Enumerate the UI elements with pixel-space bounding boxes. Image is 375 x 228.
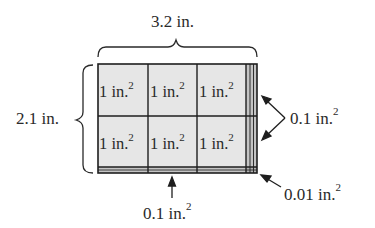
area-diagram: 3.2 in. 2.1 in. 1 in.2 1 in.2 1 in.2 1 i… <box>0 0 375 228</box>
corner-callout-arrow <box>261 175 281 187</box>
bottom-strip-label: 0.1 in.2 <box>143 205 191 222</box>
cell-label-r0c0: 1 in.2 <box>99 84 134 101</box>
arrowhead-icon <box>169 177 176 186</box>
right-strip-label: 0.1 in.2 <box>290 110 338 127</box>
right-strip <box>246 64 257 173</box>
cell-label-r0c2: 1 in.2 <box>199 84 234 101</box>
cell-label-r1c1: 1 in.2 <box>150 136 185 153</box>
cell-label-r1c0: 1 in.2 <box>99 136 134 153</box>
bottom-callout-arrow <box>169 177 176 198</box>
corner-label: 0.01 in.2 <box>284 186 341 203</box>
width-label: 3.2 in. <box>151 13 194 30</box>
right-callout-arrows <box>262 96 285 140</box>
cell-label-r1c2: 1 in.2 <box>199 136 234 153</box>
cell-label-r0c1: 1 in.2 <box>150 84 185 101</box>
left-brace <box>76 65 93 173</box>
height-label: 2.1 in. <box>16 110 59 127</box>
arrowhead-icon <box>261 175 271 182</box>
top-brace <box>98 40 257 57</box>
